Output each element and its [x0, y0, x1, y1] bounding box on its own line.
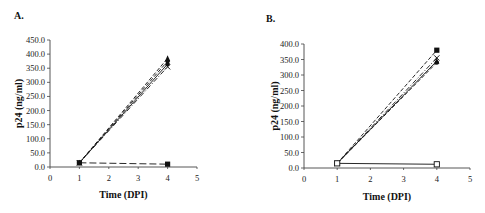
data-series [335, 48, 440, 166]
y-tick-label: 200.0 [280, 101, 299, 111]
square-marker-icon [434, 48, 439, 53]
x-tick-label: 2 [107, 173, 111, 183]
x-tick-label: 1 [335, 174, 339, 184]
y-tick-label: 450.0 [26, 35, 45, 45]
y-tick-label: 0.0 [34, 162, 45, 172]
x-tick-label: 5 [468, 174, 472, 184]
x-tick-label: 0 [48, 173, 52, 183]
x-tick-label: 4 [435, 174, 440, 184]
y-tick-label: 400.0 [280, 39, 299, 49]
y-tick-label: 250.0 [26, 91, 45, 101]
y-tick-label: 250.0 [280, 86, 299, 96]
x-tick-label: 4 [165, 173, 170, 183]
x-tick-label: 1 [77, 173, 81, 183]
x-axis-title: Time (DPI) [363, 191, 411, 203]
y-axis-title: p24 (ng/ml) [269, 81, 281, 130]
x-tick-label: 3 [136, 173, 140, 183]
line-chart-b: 0.050.0100.0150.0200.0250.0300.0350.0400… [240, 0, 485, 213]
y-tick-label: 100.0 [280, 132, 299, 142]
data-series [77, 160, 170, 167]
x-tick-label: 3 [401, 174, 405, 184]
y-tick-label: 200.0 [26, 106, 45, 116]
square-marker-icon [77, 160, 82, 165]
y-tick-label: 400.0 [26, 49, 45, 59]
data-series [77, 55, 170, 165]
y-tick-label: 300.0 [26, 77, 45, 87]
line-chart-a: 0.050.0100.0150.0200.0250.0300.0350.0400… [0, 0, 240, 213]
y-tick-label: 300.0 [280, 70, 299, 80]
circle-marker-icon [435, 60, 439, 64]
x-tick-label: 2 [368, 174, 372, 184]
y-axis-title: p24 (ng/ml) [13, 79, 25, 128]
y-tick-label: 50.0 [284, 148, 299, 158]
y-tick-label: 100.0 [26, 134, 45, 144]
square-marker-icon [165, 162, 170, 167]
chart-panel-b: B. 0.050.0100.0150.0200.0250.0300.0350.0… [240, 0, 485, 213]
data-series [335, 60, 439, 165]
y-tick-label: 50.0 [30, 148, 45, 158]
open-square-marker-icon [434, 162, 439, 167]
x-tick-label: 0 [302, 174, 306, 184]
x-tick-label: 5 [195, 173, 199, 183]
open-square-marker-icon [335, 161, 340, 166]
data-series [335, 161, 440, 167]
y-tick-label: 150.0 [26, 120, 45, 130]
x-axis-title: Time (DPI) [99, 189, 147, 201]
y-tick-label: 350.0 [280, 55, 299, 65]
y-tick-label: 0.0 [288, 163, 299, 173]
y-tick-label: 150.0 [280, 117, 299, 127]
chart-panel-a: A. 0.050.0100.0150.0200.0250.0300.0350.0… [0, 0, 240, 213]
y-tick-label: 350.0 [26, 63, 45, 73]
